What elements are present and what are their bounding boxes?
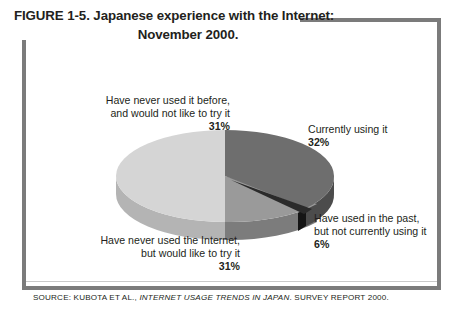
source-divider [26, 281, 437, 282]
label-never-used-not-like: Have never used it before, and would not… [34, 94, 230, 134]
label-never-used-not-like-line1: Have never used it before, [34, 94, 230, 107]
label-never-used-would-like-line2: but would like to try it [34, 247, 240, 260]
source-publication-title: INTERNET USAGE TRENDS IN JAPAN [139, 293, 289, 302]
frame-bottom-border [22, 286, 441, 290]
label-currently-using-line1: Currently using it [308, 123, 387, 136]
label-never-used-would-like: Have never used the Internet, but would … [34, 234, 240, 274]
source-suffix: . SURVEY REPORT 2000. [289, 293, 388, 302]
frame-right-border [437, 18, 441, 290]
label-used-in-past-line1: Have used in the past, [314, 212, 426, 225]
figure-title-line-1: FIGURE 1-5. Japanese experience with the… [14, 6, 314, 25]
figure-title-line-2: November 2000. [14, 25, 314, 44]
label-never-used-would-like-value: 31% [34, 260, 240, 273]
pie-chart-svg [110, 130, 340, 250]
source-note: SOURCE: KUBOTA ET AL., INTERNET USAGE TR… [33, 293, 389, 302]
label-used-in-past: Have used in the past, but not currently… [314, 212, 426, 252]
label-used-in-past-line2: but not currently using it [314, 225, 426, 238]
label-currently-using: Currently using it 32% [308, 123, 387, 149]
label-never-used-not-like-line2: and would not like to try it [34, 107, 230, 120]
chart-area: Have never used it before, and would not… [26, 46, 437, 280]
label-never-used-not-like-value: 31% [34, 120, 230, 133]
label-currently-using-value: 32% [308, 136, 387, 149]
source-prefix: SOURCE: KUBOTA ET AL., [33, 293, 139, 302]
label-never-used-would-like-line1: Have never used the Internet, [34, 234, 240, 247]
label-used-in-past-value: 6% [314, 238, 426, 251]
figure-title: FIGURE 1-5. Japanese experience with the… [14, 6, 314, 44]
